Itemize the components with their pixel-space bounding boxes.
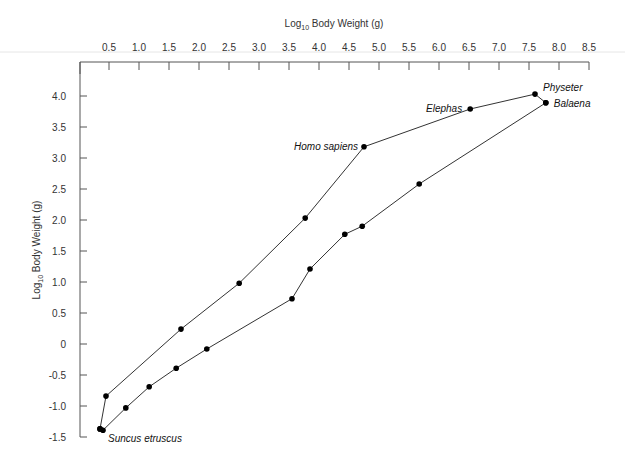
data-point	[289, 296, 295, 302]
chart: Log10 Body Weight (g) 0.51.01.52.02.53.0…	[0, 0, 625, 464]
data-point	[146, 384, 152, 390]
y-tick-label: -1.0	[49, 401, 67, 412]
y-tick-label: -1.5	[49, 432, 67, 443]
species-label: Elephas	[426, 103, 462, 114]
data-point	[204, 346, 210, 352]
x-tick-label: 3.5	[282, 42, 296, 53]
data-point	[307, 266, 313, 272]
data-point	[532, 91, 538, 97]
x-axis: 0.51.01.52.02.53.03.54.04.55.05.56.06.57…	[80, 42, 596, 74]
species-label: Balaena	[554, 98, 591, 109]
x-tick-label: 8.5	[582, 42, 596, 53]
x-tick-label: 2.5	[222, 42, 236, 53]
y-tick-label: 1.5	[52, 246, 66, 257]
data-point	[123, 405, 129, 411]
x-tick-label: 1.5	[162, 42, 176, 53]
x-tick-label: 5.0	[372, 42, 386, 53]
y-tick-label: 4.0	[52, 91, 66, 102]
y-tick-label: 2.5	[52, 184, 66, 195]
y-axis-title: Log10 Body Weight (g)	[31, 201, 44, 300]
x-tick-label: 2.0	[192, 42, 206, 53]
x-tick-label: 8.0	[552, 42, 566, 53]
data-point	[416, 181, 422, 187]
x-tick-label: 7.5	[522, 42, 536, 53]
data-point	[97, 426, 103, 432]
x-tick-label: 3.0	[252, 42, 266, 53]
data-point	[342, 232, 348, 238]
x-axis-title: Log10 Body Weight (g)	[285, 18, 384, 31]
species-label: Homo sapiens	[294, 141, 358, 152]
data-point	[178, 326, 184, 332]
x-tick-label: 6.0	[432, 42, 446, 53]
data-point	[361, 144, 367, 150]
x-tick-label: 0.5	[102, 42, 116, 53]
y-tick-label: 0	[60, 339, 66, 350]
x-tick-label: 4.0	[312, 42, 326, 53]
data-point	[359, 223, 365, 229]
y-tick-label: 2.0	[52, 215, 66, 226]
x-tick-label: 1.0	[132, 42, 146, 53]
data-point	[236, 280, 242, 286]
species-label: Physeter	[543, 82, 583, 93]
series-line-lower	[100, 103, 546, 430]
y-tick-label: 3.0	[52, 153, 66, 164]
y-tick-label: -0.5	[49, 370, 67, 381]
data-point	[103, 393, 109, 399]
y-tick-label: 3.5	[52, 122, 66, 133]
species-label: Suncus etruscus	[108, 433, 182, 444]
data-point	[173, 365, 179, 371]
data-point	[302, 215, 308, 221]
y-tick-label: 0.5	[52, 308, 66, 319]
x-tick-label: 5.5	[402, 42, 416, 53]
y-tick-label: 1.0	[52, 277, 66, 288]
data-point	[543, 100, 549, 106]
x-tick-label: 7.0	[492, 42, 506, 53]
y-axis: 4.03.53.02.52.01.51.00.50-0.5-1.0-1.5	[49, 62, 87, 443]
data-point	[467, 106, 473, 112]
annotations: PhyseterBalaenaElephasHomo sapiensSuncus…	[108, 82, 591, 444]
x-axis-line	[80, 62, 589, 74]
x-tick-label: 4.5	[342, 42, 356, 53]
x-tick-label: 6.5	[462, 42, 476, 53]
